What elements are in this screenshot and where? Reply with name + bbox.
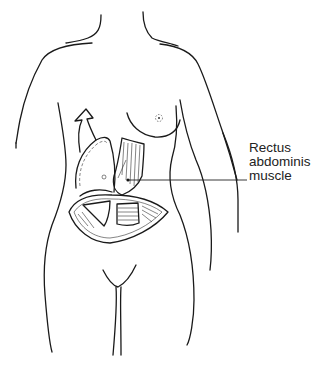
neck-left-outline (66, 15, 101, 43)
torso-left-side (44, 103, 66, 352)
fascia-defect (83, 201, 110, 226)
rectus-muscle-flap (113, 138, 144, 195)
rectus-abdominis-label: Rectus abdominis muscle (249, 141, 311, 183)
neck-right-outline (143, 12, 178, 46)
shoulder-left (16, 43, 92, 143)
label-line-1: Rectus (249, 141, 311, 155)
skin-flap (76, 137, 115, 192)
inner-thigh-left (113, 287, 116, 355)
muscle-bed (117, 203, 139, 225)
nipple-dot (158, 117, 160, 119)
vessel-circle (102, 175, 106, 179)
abdominal-incision (69, 195, 168, 243)
label-line-3: muscle (249, 169, 311, 183)
label-line-2: abdominis (249, 155, 311, 169)
arm-right-outer (223, 133, 238, 232)
arm-right-inner (180, 100, 211, 270)
breast-right (127, 113, 180, 137)
rectus-abdominis-flap-illustration: Rectus abdominis muscle (0, 0, 326, 365)
muscle-bed-lines (118, 208, 138, 220)
pubic-contour (103, 265, 136, 287)
arrow-up-icon (75, 109, 96, 152)
torso-right-side (170, 106, 194, 345)
